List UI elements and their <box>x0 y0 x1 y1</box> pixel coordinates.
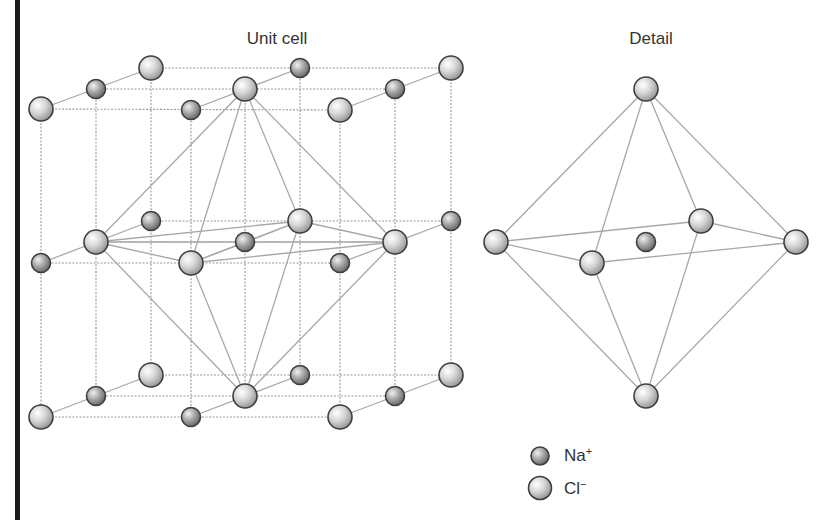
sodium-ion <box>87 80 106 99</box>
legend-chloride-symbol: Cl <box>564 479 580 498</box>
chloride-ion <box>29 405 53 429</box>
sodium-ion <box>236 233 255 252</box>
sodium-ion <box>386 387 405 406</box>
legend-sodium-charge: + <box>586 445 592 457</box>
chloride-ion <box>139 363 163 387</box>
unit-cell-title: Unit cell <box>247 29 307 49</box>
chloride-ion <box>439 56 463 80</box>
sodium-ion <box>442 212 461 231</box>
legend-label-chloride: Cl− <box>564 478 587 499</box>
chloride-ion <box>233 77 257 101</box>
chloride-ion-front <box>580 251 604 275</box>
legend-icons <box>529 447 552 500</box>
chloride-ion <box>383 230 407 254</box>
sodium-ion <box>182 101 201 120</box>
unit-cell-atoms <box>29 56 463 429</box>
detail-octahedron-atoms <box>484 77 808 408</box>
chloride-ion <box>139 56 163 80</box>
sodium-ion <box>331 254 350 273</box>
legend-chloride-charge: − <box>580 478 586 490</box>
chloride-ion <box>29 97 53 121</box>
sodium-ion-center <box>637 233 656 252</box>
sodium-ion <box>87 387 106 406</box>
chloride-ion-top <box>634 77 658 101</box>
chloride-ion <box>84 230 108 254</box>
sodium-ion <box>32 254 51 273</box>
chloride-ion <box>328 98 352 122</box>
legend-label-sodium: Na+ <box>564 445 592 466</box>
chloride-ion-legend-icon <box>529 477 552 500</box>
sodium-ion <box>386 80 405 99</box>
chloride-ion <box>328 405 352 429</box>
sodium-ion <box>142 212 161 231</box>
chloride-ion-bottom <box>634 384 658 408</box>
chloride-ion <box>439 363 463 387</box>
nacl-crystal-diagram <box>0 0 834 525</box>
sodium-ion <box>291 366 310 385</box>
detail-title: Detail <box>629 29 672 49</box>
chloride-ion <box>179 251 203 275</box>
chloride-ion <box>233 384 257 408</box>
sodium-ion-legend-icon <box>531 447 549 465</box>
chloride-ion-right <box>784 230 808 254</box>
sodium-ion <box>182 408 201 427</box>
sodium-ion <box>291 59 310 78</box>
chloride-ion <box>288 209 312 233</box>
legend-sodium-symbol: Na <box>564 446 586 465</box>
chloride-ion-back <box>689 209 713 233</box>
chloride-ion-left <box>484 230 508 254</box>
